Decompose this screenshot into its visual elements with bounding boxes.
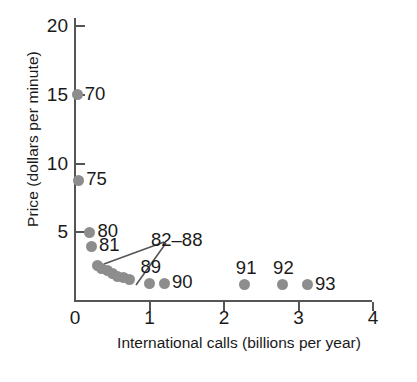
x-tick-label-1: 1 xyxy=(130,308,170,328)
data-point-91 xyxy=(239,279,250,290)
data-point-88 xyxy=(124,274,135,285)
x-axis-title: International calls (billions per year) xyxy=(74,334,404,352)
y-tick-10 xyxy=(76,163,85,165)
data-point-label-90: 90 xyxy=(172,273,193,292)
data-point-label-93: 93 xyxy=(315,275,336,294)
data-point-75 xyxy=(73,175,84,186)
annotation-label-82-88: 82–88 xyxy=(151,231,202,250)
x-tick-label-3: 3 xyxy=(279,308,319,328)
y-axis-line xyxy=(74,18,76,302)
data-point-70 xyxy=(72,89,83,100)
x-tick-label-2: 2 xyxy=(204,308,244,328)
y-tick-label-5: 5 xyxy=(24,222,68,241)
data-point-81 xyxy=(86,241,97,252)
y-tick-label-20: 20 xyxy=(24,16,68,35)
data-point-label-70: 70 xyxy=(85,85,106,104)
data-point-92 xyxy=(277,279,288,290)
data-point-label-89: 89 xyxy=(141,258,162,277)
data-point-label-92: 92 xyxy=(273,259,294,278)
data-point-label-91: 91 xyxy=(236,259,257,278)
data-point-label-81: 81 xyxy=(99,236,120,255)
y-tick-label-15: 15 xyxy=(24,85,68,104)
x-tick-label-4: 4 xyxy=(353,308,393,328)
y-tick-label-10: 10 xyxy=(24,154,68,173)
data-point-80 xyxy=(84,227,95,238)
data-point-90 xyxy=(159,278,170,289)
x-tick-label-0: 0 xyxy=(55,308,95,328)
y-tick-20 xyxy=(76,25,85,27)
data-point-93 xyxy=(302,279,313,290)
data-point-89 xyxy=(144,278,155,289)
data-point-label-75: 75 xyxy=(86,170,107,189)
scatter-chart: Price (dollars per minute) International… xyxy=(0,0,417,382)
